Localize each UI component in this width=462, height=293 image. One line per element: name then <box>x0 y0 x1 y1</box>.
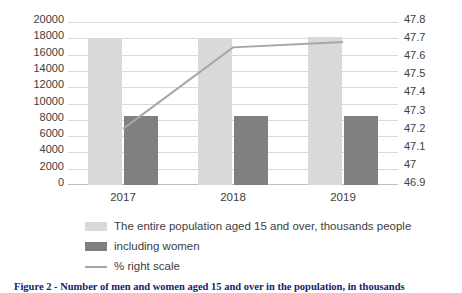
y-right-tick: 47.2 <box>404 123 444 134</box>
legend-swatch-icon <box>85 222 107 231</box>
legend-label: including women <box>114 240 200 253</box>
y-right-tick: 47 <box>404 159 444 170</box>
y-right-tick: 47.5 <box>404 68 444 79</box>
x-axis-tick-2018: 2018 <box>178 190 288 204</box>
y-right-tick: 47.6 <box>404 50 444 61</box>
line-series-layer <box>68 22 398 185</box>
y-right-tick: 47.1 <box>404 141 444 152</box>
legend-line-icon <box>85 266 107 268</box>
y-left-tick: 20000 <box>2 14 64 25</box>
y-left-tick: 16000 <box>2 47 64 58</box>
y-left-tick: 18000 <box>2 30 64 41</box>
y-left-tick: 4000 <box>2 144 64 155</box>
plot-area <box>68 22 398 185</box>
legend-item-women[interactable]: including women <box>85 238 415 255</box>
y-left-tick: 0 <box>2 177 64 188</box>
percent-line <box>123 42 343 129</box>
legend-item-total[interactable]: The entire population aged 15 and over, … <box>85 218 415 235</box>
y-left-tick: 8000 <box>2 112 64 123</box>
y-axis-right: 47.8 47.7 47.6 47.5 47.4 47.3 47.2 47.1 … <box>404 14 462 193</box>
y-right-tick: 47.8 <box>404 14 444 25</box>
x-axis: 201720182019 <box>68 188 398 206</box>
y-right-tick: 47.3 <box>404 105 444 116</box>
legend-item-percent-line[interactable]: % right scale <box>85 258 415 275</box>
y-left-tick: 6000 <box>2 128 64 139</box>
y-left-tick: 2000 <box>2 161 64 172</box>
y-right-tick: 46.9 <box>404 177 444 188</box>
y-axis-left: 20000 18000 16000 14000 12000 10000 8000… <box>0 14 64 193</box>
y-left-tick: 10000 <box>2 96 64 107</box>
y-right-tick: 47.4 <box>404 86 444 97</box>
y-left-tick: 12000 <box>2 79 64 90</box>
legend-swatch-icon <box>85 242 107 251</box>
legend-label: The entire population aged 15 and over, … <box>114 220 411 233</box>
y-left-tick: 14000 <box>2 63 64 74</box>
x-axis-tick-2017: 2017 <box>68 190 178 204</box>
legend-label: % right scale <box>114 260 180 273</box>
x-axis-tick-2019: 2019 <box>288 190 398 204</box>
y-right-tick: 47.7 <box>404 32 444 43</box>
figure-caption: Figure 2 - Number of men and women aged … <box>14 281 454 293</box>
chart-legend: The entire population aged 15 and over, … <box>85 218 415 278</box>
